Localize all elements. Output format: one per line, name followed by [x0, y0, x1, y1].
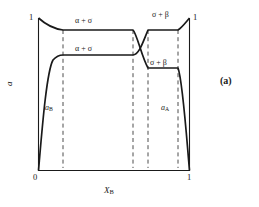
panel-label: (a): [220, 76, 232, 86]
curve-aA: [39, 18, 190, 171]
curve-label-aB: aB: [45, 104, 53, 113]
curve-label-aA-subscript: A: [165, 106, 169, 112]
y-axis-tick-top: 1: [29, 13, 33, 22]
region-label-alpha-sigma-lower: α + σ: [75, 45, 92, 53]
curve-aB: [39, 18, 190, 171]
region-label-alpha-sigma-upper: α + σ: [75, 17, 92, 25]
x-axis-title: XB: [104, 186, 114, 196]
x-axis-tick-right: 1: [187, 173, 191, 182]
y-axis-tick-top-right: 1: [193, 13, 197, 22]
figure-container: 1 1 0 1 a XB α + σ α + σ σ + β σ + β aB …: [0, 0, 259, 207]
region-label-sigma-beta-lower: σ + β: [150, 59, 167, 67]
plot-canvas: [0, 0, 259, 207]
y-axis-title: a: [5, 82, 14, 87]
x-axis-tick-left: 0: [33, 173, 37, 182]
curve-label-aB-subscript: B: [49, 106, 53, 112]
axis-frame: [38, 18, 190, 171]
region-label-sigma-beta-upper: σ + β: [152, 11, 169, 19]
curve-label-aA: aA: [161, 104, 169, 113]
x-axis-title-subscript: B: [110, 188, 114, 195]
